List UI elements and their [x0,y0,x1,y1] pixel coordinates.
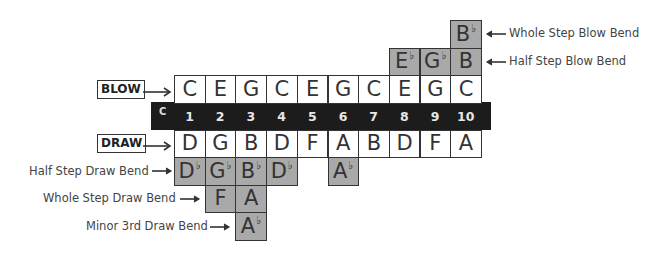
half-step-draw-bend-cell: D♭ [266,157,298,186]
draw-arrow-icon [143,142,173,150]
blow-note-cell: G [420,75,452,104]
whole-step-blow-bend-label: Whole Step Blow Bend [509,26,639,40]
note-letter: G [212,133,228,154]
draw-label: DRAW [97,134,146,153]
note-letter: A [336,133,350,154]
whole-step-draw-bend-label: Whole Step Draw Bend [43,191,176,205]
key-label: C [159,106,166,117]
blow-note-cell: C [174,75,206,104]
note-letter: E [214,79,227,100]
flat-icon: ♭ [471,23,476,34]
whole-step-blow-bend-arrow-icon [486,30,506,38]
flat-icon: ♭ [288,160,293,171]
note-letter: C [367,79,382,100]
hole-number: 3 [235,109,266,124]
flat-icon: ♭ [226,160,231,171]
minor-3rd-draw-bend-label: Minor 3rd Draw Bend [86,219,208,233]
minor-3rd-draw-bend-arrow-icon [210,223,230,231]
draw-note-cell: F [420,130,452,159]
flat-icon: ♭ [441,50,446,61]
draw-note-cell: D [266,130,298,159]
half-step-blow-bend-arrow-icon [486,58,506,66]
note-letter: G [209,161,225,182]
note-letter: G [243,79,259,100]
flat-icon: ♭ [256,160,261,171]
note-letter: G [335,79,351,100]
half-step-draw-bend-cell: A♭ [328,157,360,186]
half-step-blow-bend-label: Half Step Blow Bend [509,54,626,68]
note-letter: E [398,79,411,100]
draw-note-cell: F [297,130,329,159]
draw-note-cell: D [174,130,206,159]
draw-note-cell: G [205,130,237,159]
note-letter: B [367,133,381,154]
hole-number: 6 [328,109,359,124]
note-letter: D [271,161,287,182]
note-letter: A [459,133,473,154]
minor-3rd-draw-bend-cell: A♭ [235,212,267,241]
note-letter: B [456,24,470,45]
flat-icon: ♭ [196,160,201,171]
whole-step-draw-bend-arrow-icon [180,195,200,203]
flat-icon: ♭ [409,50,414,61]
note-letter: E [306,79,319,100]
draw-note-cell: B [235,130,267,159]
hole-number: 2 [205,109,236,124]
blow-note-cell: C [358,75,390,104]
hole-number: 7 [358,109,389,124]
whole-step-blow-bend-cell: B♭ [450,20,482,49]
hole-number: 4 [266,109,297,124]
blow-note-cell: C [450,75,482,104]
note-letter: A [241,216,255,237]
hole-number: 5 [297,109,328,124]
note-letter: F [307,133,319,154]
blow-note-cell: G [235,75,267,104]
blow-note-cell: G [328,75,360,104]
draw-note-cell: D [389,130,421,159]
note-letter: G [424,51,440,72]
half-step-draw-bend-arrow-icon [152,167,172,175]
hole-number: 8 [389,109,420,124]
note-letter: C [459,79,474,100]
note-letter: E [395,51,408,72]
draw-note-cell: A [450,130,482,159]
note-letter: D [179,161,195,182]
draw-note-cell: B [358,130,390,159]
draw-note-cell: A [328,130,360,159]
half-step-blow-bend-cell: B [450,48,482,77]
half-step-draw-bend-cell: D♭ [174,157,206,186]
harmonica-body-band: C 12345678910 [151,102,491,130]
half-step-blow-bend-cell: E♭ [389,48,421,77]
harmonica-diagram: BLOW DRAW Whole Step Blow Bend Half Step… [0,0,672,257]
note-letter: C [275,79,290,100]
note-letter: B [241,161,255,182]
note-letter: B [244,133,258,154]
blow-note-cell: E [297,75,329,104]
hole-number: 1 [174,109,205,124]
note-letter: F [214,188,226,209]
blow-note-cell: C [266,75,298,104]
note-letter: D [182,133,198,154]
half-step-blow-bend-cell: G♭ [420,48,452,77]
half-step-draw-bend-cell: G♭ [205,157,237,186]
blow-note-cell: E [205,75,237,104]
whole-step-draw-bend-cell: A [235,185,267,214]
note-letter: A [244,188,258,209]
note-letter: D [274,133,290,154]
whole-step-draw-bend-cell: F [205,185,237,214]
note-letter: D [397,133,413,154]
note-letter: A [333,161,347,182]
blow-arrow-icon [143,88,173,96]
note-letter: C [182,79,197,100]
note-letter: B [459,51,473,72]
hole-number: 10 [450,109,481,124]
blow-label: BLOW [97,80,145,99]
flat-icon: ♭ [256,215,261,226]
flat-icon: ♭ [348,160,353,171]
half-step-draw-bend-label: Half Step Draw Bend [29,164,149,178]
blow-note-cell: E [389,75,421,104]
note-letter: F [429,133,441,154]
note-letter: G [427,79,443,100]
hole-number: 9 [420,109,451,124]
half-step-draw-bend-cell: B♭ [235,157,267,186]
